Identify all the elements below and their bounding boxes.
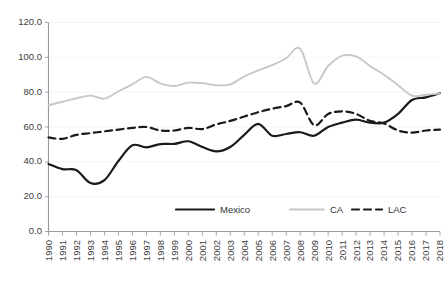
x-tick-label: 2011 [337,240,348,260]
x-tick-label: 1998 [155,240,166,261]
x-tick-label: 2005 [253,240,264,261]
legend-label-ca: CA [330,204,344,215]
series-line-ca [49,48,441,106]
y-tick-label: 20.0 [24,190,43,201]
legend-label-mexico: Mexico [220,204,250,215]
x-tick-label: 2013 [364,240,375,261]
chart-canvas: 120.0100.080.060.040.020.00.0 1990199119… [0,0,448,281]
y-tick-labels: 120.0100.080.060.040.020.00.0 [18,16,42,236]
y-axis: 120.0100.080.060.040.020.00.0 [18,16,48,236]
x-tick-label: 2003 [225,240,236,261]
x-axis: 1990199119921993199419951996199719981999… [43,232,446,262]
line-chart: 120.0100.080.060.040.020.00.0 1990199119… [0,0,448,281]
x-tick-label: 2004 [239,240,250,261]
x-tick-labels: 1990199119921993199419951996199719981999… [43,240,446,261]
x-tick-marks [49,232,441,236]
x-tick-label: 1990 [43,240,54,261]
y-tick-label: 80.0 [24,86,43,97]
x-tick-label: 1992 [71,240,82,261]
y-tick-label: 120.0 [18,16,42,27]
x-tick-label: 1995 [113,240,124,261]
x-tick-label: 2002 [211,240,222,261]
x-tick-label: 2015 [392,240,403,261]
x-tick-label: 2009 [309,240,320,261]
x-tick-label: 2014 [378,240,389,261]
x-tick-label: 1994 [99,240,110,261]
data-series-group [49,48,441,184]
gridlines [49,23,441,197]
series-line-lac [49,102,441,139]
series-line-mexico [49,93,441,184]
x-tick-label: 1996 [127,240,138,261]
x-tick-label: 1999 [169,240,180,261]
chart-legend: MexicoCALAC [176,204,407,215]
x-tick-label: 1997 [141,240,152,261]
y-tick-label: 0.0 [29,225,42,236]
x-tick-label: 2008 [295,240,306,261]
x-tick-label: 2018 [434,240,445,261]
y-tick-label: 100.0 [18,51,42,62]
x-tick-label: 2010 [323,240,334,261]
x-tick-label: 2016 [406,240,417,261]
x-tick-label: 2001 [197,240,208,261]
x-tick-label: 1993 [85,240,96,261]
x-tick-label: 2007 [281,240,292,261]
x-tick-label: 2012 [351,240,362,261]
x-tick-label: 2017 [420,240,431,261]
legend-label-lac: LAC [388,204,407,215]
y-tick-label: 40.0 [24,155,43,166]
y-tick-label: 60.0 [24,121,43,132]
x-tick-label: 2000 [183,240,194,261]
x-tick-label: 1991 [57,240,68,261]
x-tick-label: 2006 [267,240,278,261]
